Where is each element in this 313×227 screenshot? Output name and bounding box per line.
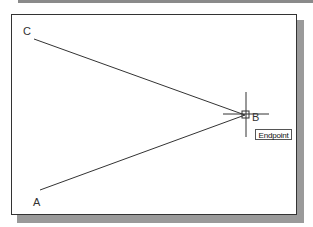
point-label-a: A bbox=[33, 197, 40, 208]
point-label-c: C bbox=[23, 26, 31, 37]
drawing-canvas[interactable] bbox=[0, 0, 313, 227]
line-c-to-b[interactable] bbox=[34, 39, 245, 115]
line-a-to-b[interactable] bbox=[40, 115, 245, 190]
point-label-b: B bbox=[252, 112, 259, 123]
snap-tooltip: Endpoint bbox=[255, 129, 292, 140]
